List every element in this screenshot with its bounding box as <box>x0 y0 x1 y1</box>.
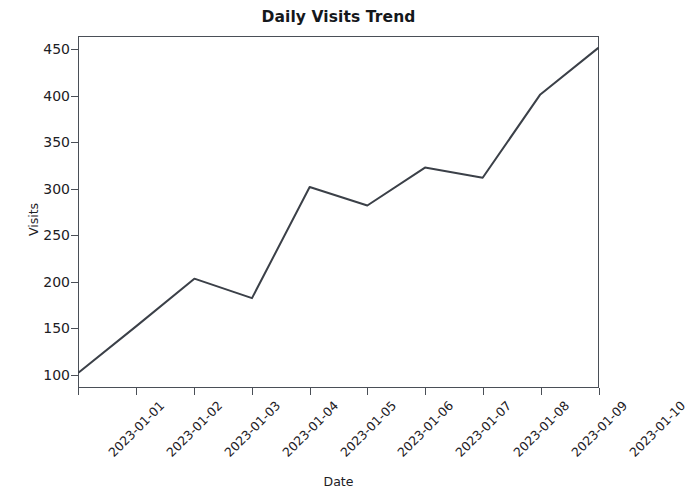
x-tick-label: 2023-01-01 <box>105 398 167 460</box>
x-tick-mark <box>78 388 79 395</box>
y-tick-label: 150 <box>43 320 70 336</box>
plot-area <box>78 36 599 388</box>
x-tick-mark <box>310 388 311 395</box>
y-tick-label: 250 <box>43 227 70 243</box>
x-tick-mark <box>252 388 253 395</box>
x-tick-label: 2023-01-09 <box>568 398 630 460</box>
y-tick-label: 300 <box>43 181 70 197</box>
x-tick-label: 2023-01-06 <box>395 398 457 460</box>
y-tick-label: 450 <box>43 41 70 57</box>
x-tick-label: 2023-01-10 <box>626 398 688 460</box>
x-tick-label: 2023-01-04 <box>279 398 341 460</box>
y-tick-mark <box>71 328 78 329</box>
x-tick-mark <box>599 388 600 395</box>
y-tick-mark <box>71 375 78 376</box>
y-tick-label: 400 <box>43 88 70 104</box>
line-series <box>79 37 598 387</box>
x-tick-mark <box>541 388 542 395</box>
x-tick-mark <box>136 388 137 395</box>
x-tick-mark <box>367 388 368 395</box>
y-tick-label: 200 <box>43 274 70 290</box>
x-tick-mark <box>425 388 426 395</box>
x-tick-label: 2023-01-03 <box>221 398 283 460</box>
x-tick-label: 2023-01-02 <box>163 398 225 460</box>
x-tick-mark <box>194 388 195 395</box>
y-tick-mark <box>71 235 78 236</box>
chart-title: Daily Visits Trend <box>78 8 599 26</box>
x-tick-label: 2023-01-05 <box>337 398 399 460</box>
x-tick-label: 2023-01-07 <box>453 398 515 460</box>
y-tick-label: 100 <box>43 367 70 383</box>
x-tick-label: 2023-01-08 <box>510 398 572 460</box>
y-axis-label: Visits <box>26 180 41 260</box>
y-tick-mark <box>71 49 78 50</box>
y-tick-label: 350 <box>43 134 70 150</box>
y-tick-mark <box>71 282 78 283</box>
series-polyline <box>79 48 598 372</box>
x-axis-label: Date <box>78 474 599 489</box>
y-tick-mark <box>71 96 78 97</box>
y-tick-mark <box>71 142 78 143</box>
x-tick-mark <box>483 388 484 395</box>
y-tick-mark <box>71 189 78 190</box>
